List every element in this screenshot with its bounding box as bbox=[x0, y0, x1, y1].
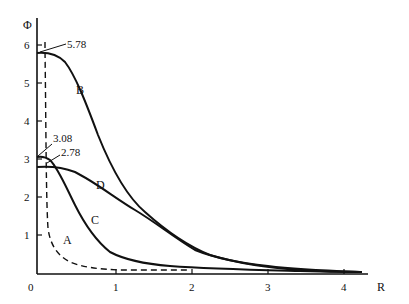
curve-label-b: B bbox=[76, 83, 84, 97]
origin-label: 0 bbox=[28, 281, 34, 293]
curve-label-a: A bbox=[63, 233, 72, 247]
y-tick-label-1: 1 bbox=[24, 229, 30, 241]
x-tick-label-3: 3 bbox=[265, 281, 271, 293]
y-tick-label-6: 6 bbox=[24, 39, 30, 51]
curve-d bbox=[37, 167, 362, 272]
annotation-2-78: 2.78 bbox=[61, 146, 81, 158]
y-tick-label-2: 2 bbox=[24, 191, 30, 203]
y-axis-label: Φ bbox=[23, 18, 32, 32]
annotation-line-3-08 bbox=[38, 144, 52, 156]
y-tick-label-4: 4 bbox=[24, 115, 30, 127]
x-tick-label-4: 4 bbox=[341, 281, 347, 293]
annotation-5-78: 5.78 bbox=[67, 38, 87, 50]
chart-canvas: 1 2 3 4 5 6 0 1 2 3 4 Φ R 5.78 3.08 2.78… bbox=[0, 0, 409, 304]
curve-b bbox=[37, 53, 362, 272]
curve-label-d: D bbox=[96, 178, 105, 192]
annotation-line-5-78 bbox=[40, 44, 66, 52]
annotation-3-08: 3.08 bbox=[53, 132, 73, 144]
curve-label-c: C bbox=[91, 213, 99, 227]
x-tick-label-2: 2 bbox=[189, 281, 195, 293]
y-tick-label-3: 3 bbox=[24, 153, 30, 165]
x-axis-label: R bbox=[377, 280, 385, 294]
curve-c bbox=[37, 157, 362, 272]
x-tick-label-1: 1 bbox=[113, 281, 119, 293]
y-tick-label-5: 5 bbox=[24, 77, 30, 89]
